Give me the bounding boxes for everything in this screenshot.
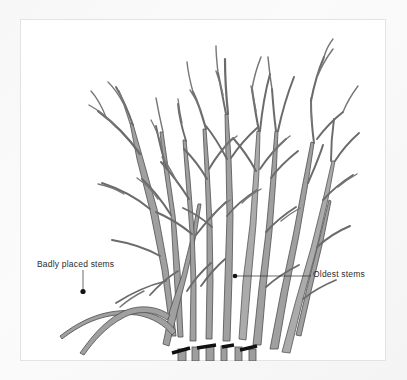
- twig-l5: [108, 82, 123, 103]
- twig-c2: [190, 90, 201, 111]
- stump-6: [249, 349, 256, 361]
- twig-r3: [233, 138, 256, 171]
- cut-mark-1: [172, 348, 190, 353]
- twig-top10: [119, 91, 130, 123]
- twig-r19: [335, 133, 359, 161]
- twig-top6: [252, 57, 261, 89]
- twig-top8: [187, 62, 193, 92]
- twig-top3: [278, 77, 294, 131]
- leader-dot-oldest: [233, 274, 238, 279]
- badly-placed-stem-group: [60, 307, 176, 355]
- twig-top9: [216, 46, 218, 73]
- main-stem-5: [203, 129, 213, 339]
- annotation-label-badly-placed-stems: Badly placed stems: [37, 259, 114, 269]
- twig-top12: [343, 86, 358, 112]
- twig-r18: [331, 119, 334, 161]
- twig-l3: [91, 91, 106, 117]
- twig-group: [89, 39, 359, 307]
- main-stem-4: [183, 140, 196, 341]
- twig-r14: [317, 112, 343, 139]
- leader-dot-badly-placed: [80, 289, 85, 294]
- annotation-label-oldest-stems: Oldest stems: [313, 269, 365, 279]
- stump-3: [206, 346, 214, 361]
- twig-top1: [225, 59, 228, 114]
- twig-c10: [206, 126, 227, 159]
- twig-r2: [251, 86, 256, 111]
- arching-stem-2: [80, 307, 170, 355]
- figure-root: .stem{ fill:#a0a0a0; stroke:#4f4f4f; str…: [0, 0, 407, 380]
- twig-r16: [338, 174, 357, 187]
- twig-r6: [272, 89, 276, 131]
- main-stem-1: [130, 123, 176, 336]
- twig-top4: [311, 57, 324, 101]
- shrub-illustration: .stem{ fill:#a0a0a0; stroke:#4f4f4f; str…: [20, 19, 386, 361]
- twig-l8: [112, 240, 160, 256]
- twig-top2: [260, 74, 270, 131]
- twig-top7: [268, 57, 272, 89]
- twig-c9: [216, 71, 223, 95]
- cut-mark-3: [222, 345, 234, 347]
- twig-c11: [231, 128, 257, 158]
